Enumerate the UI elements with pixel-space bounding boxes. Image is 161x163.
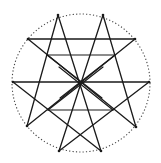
chord-line	[59, 82, 149, 151]
chord-line	[27, 15, 58, 126]
inner-segment	[47, 55, 102, 98]
vertex-left-upper	[27, 38, 30, 41]
vertex-right-middle	[148, 81, 151, 84]
vertex-top-right	[102, 14, 105, 17]
star-chords	[13, 15, 149, 151]
vertex-bottom-left	[58, 150, 61, 153]
vertex-right-upper	[134, 38, 137, 41]
vertex-left-lower	[26, 125, 29, 128]
vertex-left-middle	[12, 81, 15, 84]
inner-segment	[48, 67, 103, 110]
vertex-bottom-right	[100, 150, 103, 153]
star-diagram	[0, 0, 161, 163]
vertex-right-lower	[135, 126, 138, 129]
vertex-top-left	[57, 14, 60, 17]
chord-line	[13, 82, 101, 151]
